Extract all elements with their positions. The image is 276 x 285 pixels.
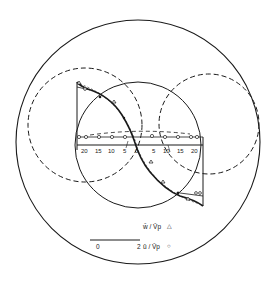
legend-triangle-icon: △ (167, 223, 172, 229)
scale-bar-start: 0 (96, 244, 100, 251)
tick-label: 15 (177, 148, 184, 154)
tick-label: 20 (81, 148, 88, 154)
tick-label: 5 (123, 148, 126, 154)
outer-boundary-circle (16, 20, 260, 264)
w-theory-curve (80, 84, 200, 204)
tick-label: 10 (163, 148, 170, 154)
tick-label: 20 (191, 148, 198, 154)
u-dashed-curve (90, 131, 190, 135)
tick-label: 15 (95, 148, 102, 154)
left-dashed-circle (28, 68, 142, 182)
tick-label: 0 (135, 148, 138, 154)
right-dashed-circle (159, 74, 259, 174)
legend-w-label: w̄ / V̄p (143, 224, 161, 231)
tick-label: 10 (108, 148, 115, 154)
scale-bar-end: 2 (137, 244, 141, 251)
legend-u-label: ū / V̄p (143, 244, 160, 251)
tick-label: 5 (152, 148, 155, 154)
diagram-canvas: 20 15 10 5 0 5 10 15 20 w̄ / V̄p △ 0 2 ū… (0, 0, 276, 285)
legend-circle-icon: ○ (167, 243, 171, 249)
